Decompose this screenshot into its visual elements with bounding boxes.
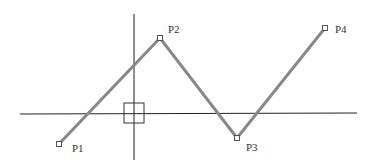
drawing-canvas: P1 P2 P3 P4 bbox=[0, 0, 373, 167]
polyline-p1-p4[interactable] bbox=[59, 28, 325, 144]
vertex-grip-p3[interactable] bbox=[235, 136, 240, 141]
diagram-svg: P1 P2 P3 P4 bbox=[0, 0, 373, 167]
vertex-markers bbox=[57, 26, 328, 147]
label-p3: P3 bbox=[246, 141, 258, 153]
label-p4: P4 bbox=[335, 23, 347, 35]
vertex-grip-p2[interactable] bbox=[158, 36, 163, 41]
label-p2: P2 bbox=[168, 23, 180, 35]
vertex-grip-p4[interactable] bbox=[323, 26, 328, 31]
horizontal-crosshair-line bbox=[20, 113, 357, 114]
label-p1: P1 bbox=[72, 142, 84, 154]
vertex-grip-p1[interactable] bbox=[57, 142, 62, 147]
